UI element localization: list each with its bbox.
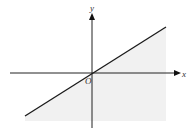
y-axis-arrow-icon <box>89 13 95 20</box>
origin-label: O <box>85 76 92 86</box>
y-axis-label: y <box>89 3 94 13</box>
x-axis-label: x <box>181 69 186 79</box>
x-axis-arrow-icon <box>174 70 181 76</box>
coordinate-plane: y x O <box>0 0 190 139</box>
